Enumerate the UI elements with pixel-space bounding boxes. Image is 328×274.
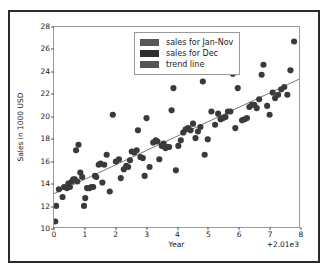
- legend-label: sales for Dec: [166, 50, 218, 58]
- x-tick-mark: [208, 227, 209, 230]
- y-tick-label: 26: [40, 46, 50, 54]
- x-axis-offset-text: +2.01e3: [267, 240, 299, 249]
- plot-axes: 10121416182022242628 012345678 Sales in …: [53, 26, 300, 228]
- x-tick-label: 6: [237, 231, 242, 239]
- x-tick-mark: [301, 227, 302, 230]
- y-tick-mark: [51, 27, 54, 28]
- y-tick-mark: [51, 94, 54, 95]
- y-tick-mark: [51, 49, 54, 50]
- y-tick-label: 28: [40, 23, 50, 31]
- x-tick-label: 4: [175, 231, 180, 239]
- x-axis-label: Year: [169, 240, 185, 249]
- y-tick-label: 18: [40, 135, 50, 143]
- y-tick-mark: [51, 206, 54, 207]
- legend-item[interactable]: sales for Jan-Nov: [140, 37, 233, 48]
- legend-item[interactable]: trend line: [140, 59, 233, 70]
- x-tick-label: 7: [268, 231, 273, 239]
- figure-frame: 10121416182022242628 012345678 Sales in …: [8, 10, 320, 263]
- y-tick-label: 10: [40, 225, 50, 233]
- legend-label: trend line: [166, 61, 204, 69]
- y-axis-label: Sales in 1000 USD: [16, 92, 25, 161]
- y-tick-mark: [51, 71, 54, 72]
- x-tick-label: 5: [206, 231, 211, 239]
- x-tick-label: 0: [52, 231, 57, 239]
- x-tick-mark: [270, 227, 271, 230]
- x-tick-mark: [146, 227, 147, 230]
- y-tick-label: 12: [40, 203, 50, 211]
- y-tick-mark: [51, 116, 54, 117]
- x-tick-label: 8: [299, 231, 304, 239]
- y-tick-mark: [51, 184, 54, 185]
- legend-label: sales for Jan-Nov: [166, 39, 233, 47]
- legend-item[interactable]: sales for Dec: [140, 48, 233, 59]
- y-tick-mark: [51, 139, 54, 140]
- x-tick-label: 3: [144, 231, 149, 239]
- chart-legend: sales for Jan-Nov sales for Dec trend li…: [134, 32, 240, 75]
- y-tick-label: 20: [40, 113, 50, 121]
- x-tick-mark: [177, 227, 178, 230]
- legend-swatch-sales-dec: [140, 50, 159, 57]
- y-tick-label: 16: [40, 158, 50, 166]
- y-tick-label: 14: [40, 180, 50, 188]
- x-tick-label: 1: [82, 231, 87, 239]
- x-tick-mark: [115, 227, 116, 230]
- y-tick-label: 22: [40, 91, 50, 99]
- legend-swatch-sales-jan-nov: [140, 39, 159, 46]
- x-tick-mark: [54, 227, 55, 230]
- y-tick-mark: [51, 161, 54, 162]
- x-tick-mark: [239, 227, 240, 230]
- y-tick-label: 24: [40, 68, 50, 76]
- x-tick-label: 2: [113, 231, 118, 239]
- x-tick-mark: [84, 227, 85, 230]
- legend-swatch-trend-line: [140, 61, 159, 68]
